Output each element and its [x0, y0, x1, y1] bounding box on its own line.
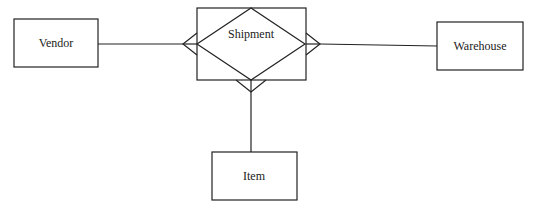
entity-vendor[interactable]: Vendor	[14, 19, 98, 67]
er-diagram-canvas: Shipment Vendor Warehouse Item	[0, 0, 534, 216]
crows-foot-vendor-icon	[183, 33, 197, 55]
warehouse-shipment-line	[320, 44, 437, 46]
vendor-label: Vendor	[39, 36, 74, 50]
crows-foot-warehouse-icon	[306, 33, 320, 55]
shipment-label: Shipment	[228, 27, 275, 41]
warehouse-label: Warehouse	[453, 39, 506, 53]
crows-foot-item-icon	[236, 80, 266, 92]
item-label: Item	[243, 169, 266, 183]
entity-item[interactable]: Item	[212, 152, 297, 200]
shipment-associative-entity[interactable]: Shipment	[197, 8, 306, 80]
entity-warehouse[interactable]: Warehouse	[437, 22, 523, 70]
